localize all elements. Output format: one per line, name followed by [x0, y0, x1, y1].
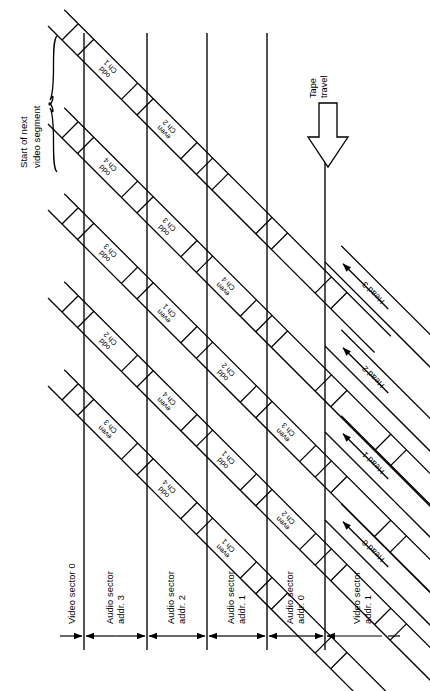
track-cell-divider: [390, 624, 406, 640]
sector-label-line2: addr. 3: [116, 571, 127, 624]
track-cell-divider: [137, 371, 153, 387]
sector-label-1: Audio sectoraddr. 3: [105, 571, 127, 624]
track-cell-divider: [375, 608, 391, 624]
track-cell-divider: [78, 39, 94, 55]
sector-label-line2: addr. 1: [237, 571, 248, 624]
track-cell-divider: [137, 283, 153, 299]
track-cell-divider: [78, 311, 94, 327]
track-rail-lower-3: [62, 312, 430, 691]
sector-label-line1: Audio sector: [166, 571, 177, 624]
track-cell-divider: [331, 390, 347, 406]
track-cell-divider: [196, 518, 212, 534]
track-cell-divider: [240, 474, 256, 490]
sector-label-line2: addr. 0: [296, 571, 307, 624]
head-line-upper-1: [341, 416, 430, 593]
track-lead-in: [48, 386, 62, 400]
track-cell-divider: [256, 401, 272, 417]
track-rail-upper-3: [78, 296, 430, 691]
sector-label-5: Video sectoraddr. 1: [352, 571, 374, 624]
track-cell-divider: [137, 459, 153, 475]
track-cell-divider: [390, 536, 406, 552]
track-cell-divider: [196, 256, 212, 272]
track-cell-divider: [78, 137, 94, 153]
track-cell-divider: [315, 637, 331, 653]
sector-label-line1: Audio sector: [105, 571, 116, 624]
track-rail-upper-0: [78, 24, 391, 337]
track-cell-divider: [181, 143, 197, 159]
sector-label-line1: Audio sector: [285, 571, 296, 624]
head-direction-arrows: [343, 264, 388, 567]
sector-label-line1: Video sector 0: [67, 563, 78, 624]
track-rail-upper-1: [78, 122, 430, 494]
track-cell-divider: [315, 549, 331, 565]
head-line-upper-3: [341, 246, 430, 423]
track-cell-divider: [78, 223, 94, 239]
track-cell-divider: [121, 83, 137, 99]
track-rail-upper-2: [78, 208, 430, 639]
diagram-canvas: Video sector 0Audio sectoraddr. 3Audio s…: [0, 0, 430, 691]
track-cell-divider: [240, 386, 256, 402]
head-line-upper-2: [341, 330, 430, 507]
track-cell-divider: [271, 233, 287, 249]
track-cell-divider: [121, 443, 137, 459]
track-cell-divider: [62, 296, 78, 312]
track-cell-divider: [137, 197, 153, 213]
track-lead-in: [48, 210, 62, 224]
track-rail-lower-1: [62, 138, 430, 510]
track-cell-divider: [181, 415, 197, 431]
track-cell-divider: [62, 384, 78, 400]
track-cell-divider: [121, 181, 137, 197]
track-cell-divider: [375, 434, 391, 450]
track-cell-divider: [390, 450, 406, 466]
curly-brace: [49, 36, 57, 172]
start-of-next-video-segment-label: Start of next video segment: [18, 106, 43, 168]
sector-label-line1: Audio sector: [226, 571, 237, 624]
track-cell-divider: [331, 652, 347, 668]
tape-travel-label: Tape travel: [308, 76, 329, 98]
sector-label-0: Video sector 0: [67, 563, 78, 624]
head-line-0: [325, 520, 430, 691]
track-cell-divider: [256, 315, 272, 331]
track-cell-divider: [271, 331, 287, 347]
track-lead-in-upper: [64, 282, 78, 296]
sector-label-line2: addr. 2: [177, 571, 188, 624]
tape-travel-arrow: [308, 103, 348, 167]
track-cell-divider: [62, 24, 78, 40]
track-cell-divider: [315, 375, 331, 391]
track-cell-divider: [300, 445, 316, 461]
track-cell-divider: [78, 399, 94, 415]
track-lead-in: [48, 124, 62, 138]
segment-bracket: [49, 36, 57, 172]
track-cell-divider: [137, 99, 153, 115]
track-cell-divider: [315, 277, 331, 293]
track-lead-in-upper: [64, 194, 78, 208]
track-rail-upper-4: [78, 384, 430, 691]
track-cell-divider: [181, 503, 197, 519]
sector-label-line1: Video sector: [352, 571, 363, 624]
sector-label-3: Audio sectoraddr. 1: [226, 571, 248, 624]
track-cell-divider: [62, 122, 78, 138]
track-cell-divider: [331, 476, 347, 492]
track-cell-divider: [256, 577, 272, 593]
track-cell-divider: [196, 342, 212, 358]
track-lead-in-upper: [64, 370, 78, 384]
track-cell-divider: [121, 355, 137, 371]
segment-label-line2: video segment: [31, 106, 44, 168]
track-cell-divider: [331, 292, 347, 308]
track-cell-divider: [121, 267, 137, 283]
track-cell-divider: [315, 461, 331, 477]
sector-divider-lines: [84, 33, 325, 650]
track-lead-in: [48, 298, 62, 312]
track-cell-divider: [256, 217, 272, 233]
track-cell-divider: [196, 158, 212, 174]
track-cell-divider: [196, 430, 212, 446]
track-cell-divider: [256, 489, 272, 505]
segment-label-line1: Start of next: [18, 106, 31, 168]
head-line-2: [325, 346, 430, 523]
track-cell-divider: [300, 533, 316, 549]
track-cell-divider: [331, 564, 347, 580]
track-cell-divider: [181, 241, 197, 257]
track-cell-divider: [181, 327, 197, 343]
track-lead-in-upper: [64, 108, 78, 122]
sector-label-4: Audio sectoraddr. 0: [285, 571, 307, 624]
